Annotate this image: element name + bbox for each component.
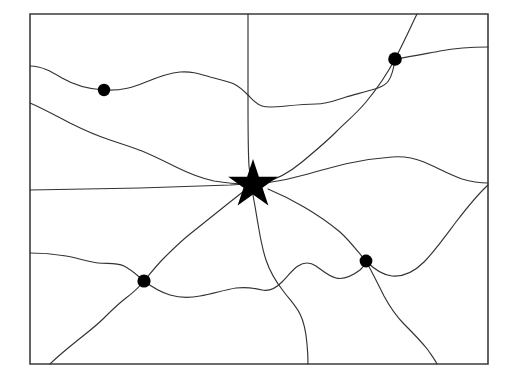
- outline-map-figure: [0, 0, 515, 382]
- city-dot-southeast: [360, 255, 373, 268]
- map-canvas: [0, 0, 515, 382]
- city-dot-northeast: [388, 52, 402, 66]
- city-dot-northwest: [98, 84, 110, 96]
- city-dot-southwest: [137, 274, 150, 287]
